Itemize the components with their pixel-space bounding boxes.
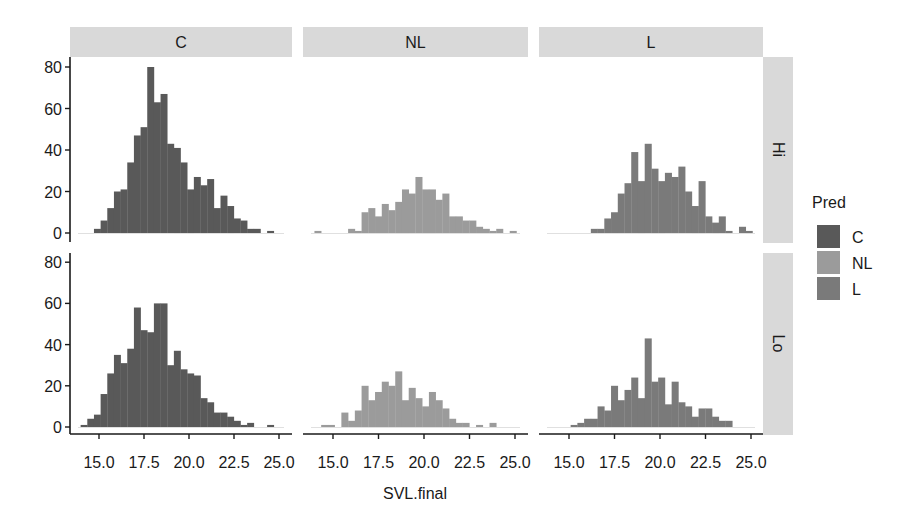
histogram-bar [739,227,746,233]
histogram-bar [355,411,362,427]
histogram-bar [665,173,672,233]
histogram-bar [409,388,416,427]
histogram-bar [631,152,638,233]
histogram-bar [382,204,389,233]
histogram-bar [618,194,625,233]
strip-l: L [539,27,763,57]
histogram-bar [463,423,470,427]
histogram-bar [174,351,181,427]
legend-label: C [852,229,864,246]
histogram-bar [611,212,618,233]
histogram-bar [127,349,134,427]
histogram-bar [240,425,247,427]
histogram-bar [422,406,429,427]
histogram-bar [712,417,719,427]
histogram-bar [167,144,174,233]
histogram-panels [78,67,755,428]
x-tick-label: 20.0 [408,454,439,471]
y-tick-label: 40 [44,337,62,354]
faceted-histogram-chart: CNLL HiLo 020406080020406080 15.017.520.… [0,0,917,527]
histogram-bar [692,206,699,233]
x-tick-label: 17.5 [599,454,630,471]
histogram-bar [604,411,611,427]
x-tick-label: 15.0 [317,454,348,471]
x-tick-label: 20.0 [644,454,675,471]
histogram-bar [395,371,402,427]
histogram-bar [181,162,188,233]
panel-hi-l [547,144,755,234]
histogram-bar [449,419,456,427]
legend-swatch [817,277,840,300]
histogram-bar [114,355,121,427]
histogram-bar [442,194,449,233]
histogram-bar [174,148,181,233]
y-tick-label: 80 [44,254,62,271]
y-tick-label: 0 [53,419,62,436]
x-tick-label: 25.0 [499,454,530,471]
histogram-bar [107,208,114,233]
histogram-bar [719,421,726,427]
histogram-bar [719,216,726,233]
histogram-bar [672,177,679,233]
histogram-bar [389,210,396,233]
histogram-bar [510,231,517,233]
histogram-bar [362,386,369,427]
histogram-bar [127,162,134,233]
histogram-bar [395,202,402,233]
histogram-bar [194,177,201,233]
strip-nl: NL [303,27,528,57]
histogram-bar [267,425,274,427]
histogram-bar [161,303,168,427]
histogram-bar [154,102,161,233]
histogram-bar [321,425,328,427]
histogram-bar [645,144,652,233]
histogram-bar [375,216,382,233]
histogram-bar [214,413,221,427]
histogram-bar [134,135,141,233]
histogram-bar [121,189,128,233]
strip-label: L [647,34,656,51]
histogram-bar [147,67,154,233]
histogram-bar [402,400,409,427]
panel-hi-c [78,67,284,234]
histogram-bar [591,419,598,427]
histogram-bar [429,392,436,427]
histogram-bar [726,231,733,233]
histogram-bar [651,169,658,233]
histogram-bar [234,218,241,233]
histogram-bar [436,200,443,233]
histogram-bar [161,94,168,233]
x-tick-label: 22.5 [218,454,249,471]
x-axis-c: 15.017.520.022.525.0 [70,434,295,471]
histogram-bar [658,378,665,427]
histogram-bar [591,229,598,233]
y-tick-label: 40 [44,142,62,159]
histogram-bar [368,400,375,427]
histogram-bar [247,423,254,427]
histogram-bar [638,398,645,427]
histogram-bar [678,402,685,427]
histogram-bar [147,332,154,427]
strip-c: C [70,27,292,57]
panel-lo-nl [311,371,520,427]
strip-label: Lo [770,335,787,353]
x-tick-label: 17.5 [363,454,394,471]
histogram-bar [631,378,638,427]
x-tick-label: 25.0 [735,454,766,471]
histogram-bar [678,167,685,233]
histogram-bar [490,231,497,233]
histogram-bar [476,425,483,427]
histogram-bar [712,223,719,233]
histogram-bar [618,400,625,427]
histogram-bar [604,218,611,233]
histogram-bar [456,216,463,233]
histogram-bar [141,127,148,233]
histogram-bar [469,221,476,233]
histogram-bar [651,382,658,427]
histogram-bar [415,398,422,427]
y-tick-label: 20 [44,378,62,395]
y-axis-lo: 020406080 [44,253,70,436]
histogram-bar [141,330,148,427]
x-tick-label: 15.0 [553,454,584,471]
histogram-bar [341,413,348,427]
